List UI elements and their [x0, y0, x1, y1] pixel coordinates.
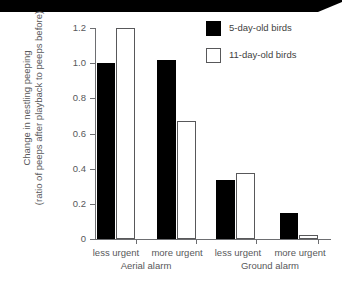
y-tick-label-0_4: 0.4	[60, 164, 86, 174]
y-tick-mark-0	[90, 239, 96, 240]
x-tick-mark-2	[196, 239, 197, 244]
x-axis-line	[95, 239, 331, 240]
x-category-label-ground-less-urgent: less urgent	[208, 248, 268, 258]
legend-item-11-day-old-birds: 11-day-old birds	[206, 45, 338, 65]
y-tick-label-0_6: 0.6	[60, 129, 86, 139]
bar-aerial-less-urgent-11day	[116, 28, 135, 239]
legend-label-11-day-old-birds: 11-day-old birds	[229, 50, 296, 60]
bar-ground-more-urgent-11day	[299, 235, 318, 239]
y-axis-title-line-2: (ratio of peeps after playback to peeps …	[33, 3, 45, 213]
x-group-label-ground-alarm: Ground alarm	[220, 261, 320, 271]
legend: 5-day-old birds 11-day-old birds	[206, 18, 338, 72]
bar-chart-figure: Change in nestling peeping (ratio of pee…	[0, 0, 342, 289]
y-axis-title: Change in nestling peeping (ratio of pee…	[21, 3, 45, 213]
x-group-label-aerial-alarm: Aerial alarm	[96, 261, 196, 271]
bar-aerial-more-urgent-11day	[177, 121, 196, 239]
legend-swatch-open-icon	[206, 48, 221, 63]
legend-label-5-day-old-birds: 5-day-old birds	[229, 23, 292, 33]
bar-aerial-less-urgent-5day	[97, 63, 115, 239]
x-tick-mark-1	[136, 239, 137, 244]
x-tick-mark-3	[256, 239, 257, 244]
bar-ground-more-urgent-5day	[280, 213, 298, 239]
bar-ground-less-urgent-5day	[216, 180, 235, 239]
y-tick-label-1_2: 1.2	[60, 23, 86, 33]
x-category-label-aerial-more-urgent: more urgent	[146, 248, 208, 258]
y-axis-title-line-1: Change in nestling peeping	[21, 3, 33, 213]
bar-aerial-more-urgent-5day	[157, 60, 176, 239]
legend-swatch-filled-icon	[206, 21, 221, 36]
y-tick-label-0: 0	[60, 234, 86, 244]
x-tick-mark-4	[318, 239, 319, 244]
y-tick-label-0_2: 0.2	[60, 199, 86, 209]
bar-ground-less-urgent-11day	[236, 173, 255, 239]
x-category-label-aerial-less-urgent: less urgent	[86, 248, 146, 258]
legend-item-5-day-old-birds: 5-day-old birds	[206, 18, 338, 38]
x-category-label-ground-more-urgent: more urgent	[268, 248, 332, 258]
y-tick-label-0_8: 0.8	[60, 93, 86, 103]
y-tick-label-1_0: 1.0	[60, 58, 86, 68]
